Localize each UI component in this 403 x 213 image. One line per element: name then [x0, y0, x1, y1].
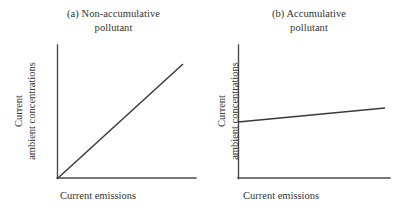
panel-a-non-accumulative: (a) Non-accumulative pollutant Current e… [0, 0, 201, 213]
panel-a-y-axis-label: Current ambient concentrations [12, 58, 38, 164]
figure-two-panel-pollutant-diagram: (a) Non-accumulative pollutant Current e… [0, 0, 403, 213]
panel-b-y-axis-label: Current ambient concentrations [215, 58, 241, 164]
panel-a-y-axis-label-line2: ambient concentrations [25, 58, 38, 164]
panel-a-data-line [58, 64, 183, 178]
panel-a-x-axis-label: Current emissions [60, 190, 136, 202]
panel-a-y-axis-label-line1: Current [12, 58, 25, 164]
panel-b-x-axis-label: Current emissions [243, 190, 319, 202]
panel-b-y-axis-label-line1: Current [215, 58, 228, 164]
panel-b-y-axis-label-line2: ambient concentrations [228, 58, 241, 164]
panel-b-data-line [238, 108, 385, 122]
panel-b-accumulative: (b) Accumulative pollutant Current emiss… [201, 0, 403, 213]
